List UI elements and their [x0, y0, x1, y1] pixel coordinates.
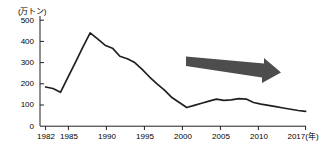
x-tick-label-2010: 2010	[250, 132, 268, 141]
x-tick-label-1985: 1985	[60, 132, 78, 141]
x-tick-label-2000: 2000	[174, 132, 192, 141]
y-tick-label-300: 300	[21, 58, 35, 67]
chart-container: (万トン) 500 400 300 200 100 0 1982 1985 19…	[0, 0, 328, 151]
x-tick-label-2005: 2005	[212, 132, 230, 141]
y-tick-label-400: 400	[21, 37, 35, 46]
x-tick-label-1982: 1982	[37, 132, 55, 141]
y-axis-unit-label: (万トン)	[18, 7, 47, 16]
trend-arrow-icon	[186, 57, 281, 84]
line-chart: (万トン) 500 400 300 200 100 0 1982 1985 19…	[0, 0, 328, 151]
y-tick-label-200: 200	[21, 79, 35, 88]
x-tick-label-1995: 1995	[136, 132, 154, 141]
x-tick-label-2017-year: 2017(年)	[287, 131, 318, 141]
x-tick-label-1990: 1990	[98, 132, 116, 141]
y-tick-label-0: 0	[30, 122, 35, 131]
y-tick-label-500: 500	[21, 16, 35, 25]
y-tick-label-100: 100	[21, 100, 35, 109]
